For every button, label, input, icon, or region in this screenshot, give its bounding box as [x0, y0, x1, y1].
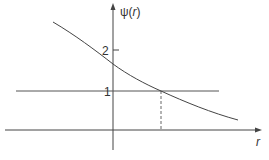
y-tick-label-1: 1 — [104, 85, 111, 99]
x-axis-arrow-icon — [255, 128, 262, 133]
y-axis-arrow-icon — [111, 3, 116, 10]
y-axis-label: ψ(r) — [120, 5, 141, 19]
x-axis-label: r — [256, 135, 261, 149]
psi-curve — [53, 22, 238, 120]
chart: ψ(r) 2 1 r — [0, 0, 269, 160]
y-tick-label-2: 2 — [102, 44, 109, 58]
